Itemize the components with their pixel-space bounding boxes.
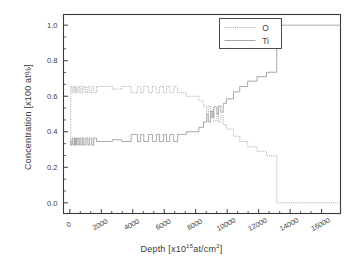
plot-frame: [64, 15, 341, 214]
x-axis-title-suffix: at/cm: [193, 244, 216, 254]
x-axis-title-prefix: Depth [x10: [141, 244, 187, 254]
legend-label-o: O: [262, 23, 269, 33]
chart-figure: 02000400060008000100001200014000160000.0…: [0, 0, 363, 272]
series-line-o: [70, 86, 341, 202]
x-tick-label: 0: [65, 219, 73, 229]
y-tick-label: 0.0: [47, 199, 58, 208]
x-tick-label: 8000: [185, 217, 203, 232]
y-tick-label: 0.6: [47, 92, 58, 101]
y-tick-label: 0.4: [47, 127, 58, 136]
legend-box: [220, 19, 282, 49]
x-tick-label: 16000: [309, 216, 331, 233]
y-tick-label: 1.0: [47, 21, 58, 30]
series-line-ti: [70, 25, 341, 145]
x-tick-label: 4000: [122, 217, 140, 232]
x-tick-label: 14000: [278, 216, 300, 233]
x-axis-title-close: ]: [220, 244, 223, 254]
y-tick-label: 0.2: [47, 163, 58, 172]
depth-profile-chart: 02000400060008000100001200014000160000.0…: [0, 0, 363, 272]
y-tick-label: 0.8: [47, 56, 58, 65]
legend-label-ti: Ti: [262, 36, 269, 46]
y-axis-title: Concentration [x100 at%]: [23, 37, 33, 197]
x-tick-label: 10000: [215, 216, 237, 233]
x-tick-label: 12000: [247, 216, 269, 233]
x-axis-title: Depth [x1015at/cm2]: [0, 243, 363, 254]
x-tick-label: 6000: [154, 217, 172, 232]
x-tick-label: 2000: [91, 217, 109, 232]
